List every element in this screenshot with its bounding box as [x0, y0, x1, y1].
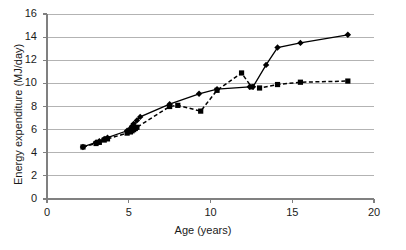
data-point-square — [298, 80, 303, 85]
data-point-diamond — [297, 40, 303, 46]
y-tick-label: 12 — [11, 53, 37, 65]
data-point-square — [80, 144, 85, 149]
x-tick-label: 20 — [359, 206, 389, 218]
x-axis-title: Age (years) — [0, 224, 406, 236]
y-tick-label: 4 — [11, 146, 37, 158]
y-tick-label: 0 — [11, 192, 37, 204]
data-point-square — [105, 136, 110, 141]
y-tick-label: 16 — [11, 7, 37, 19]
x-tick-label: 5 — [114, 206, 144, 218]
y-tick-label: 14 — [11, 30, 37, 42]
x-tick-label: 15 — [277, 206, 307, 218]
y-tick-label: 10 — [11, 76, 37, 88]
data-point-square — [167, 104, 172, 109]
data-point-square — [275, 82, 280, 87]
y-tick-label: 6 — [11, 123, 37, 135]
series-line-dashed-square-series — [83, 73, 348, 147]
data-point-square — [214, 88, 219, 93]
data-point-square — [198, 109, 203, 114]
y-tick-label: 8 — [11, 100, 37, 112]
data-point-square — [175, 103, 180, 108]
energy-expenditure-chart: Energy expenditure (MJ/day) Age (years) … — [0, 0, 406, 250]
y-tick-label: 2 — [11, 169, 37, 181]
data-point-square — [239, 70, 244, 75]
data-point-diamond — [196, 91, 202, 97]
data-point-square — [249, 84, 254, 89]
data-point-square — [257, 85, 262, 90]
x-tick-label: 0 — [32, 206, 62, 218]
data-point-square — [345, 78, 350, 83]
x-tick-label: 10 — [196, 206, 226, 218]
data-point-square — [97, 140, 102, 145]
data-point-square — [134, 125, 139, 130]
